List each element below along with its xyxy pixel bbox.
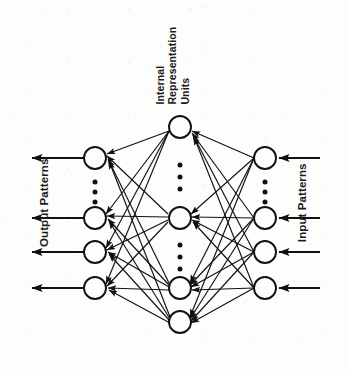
internal-representation-units-label: Internal Representation Units — [154, 25, 191, 105]
output-node-3 — [84, 241, 106, 263]
hidden-node-4 — [169, 311, 191, 333]
internal-label-line-3: Units — [179, 25, 191, 105]
input-node-3 — [254, 241, 276, 263]
input-node-4 — [254, 277, 276, 299]
figure-canvas: Output Patterns Input Patterns Internal … — [0, 0, 347, 371]
input-node-2 — [254, 207, 276, 229]
output-layer-nodes — [84, 147, 106, 299]
ellipsis-hidden-lower — [178, 243, 183, 272]
hidden-layer-nodes — [169, 116, 191, 333]
connections-input-to-hidden — [190, 131, 254, 323]
hidden-node-2 — [169, 207, 191, 229]
hidden-node-3 — [169, 277, 191, 299]
input-layer-nodes — [254, 147, 276, 299]
output-node-1 — [84, 147, 106, 169]
connections-hidden-to-output — [106, 131, 170, 323]
internal-label-line-1: Internal — [154, 25, 166, 105]
ellipsis-input-layer — [263, 180, 268, 205]
hidden-node-1 — [169, 116, 191, 138]
ellipsis-hidden-upper — [178, 163, 183, 192]
ellipsis-output-layer — [93, 180, 98, 205]
output-node-2 — [84, 207, 106, 229]
output-node-4 — [84, 277, 106, 299]
output-patterns-label: Output Patterns — [38, 158, 52, 248]
input-node-1 — [254, 147, 276, 169]
input-patterns-label: Input Patterns — [296, 158, 310, 248]
internal-label-line-2: Representation — [167, 25, 179, 105]
